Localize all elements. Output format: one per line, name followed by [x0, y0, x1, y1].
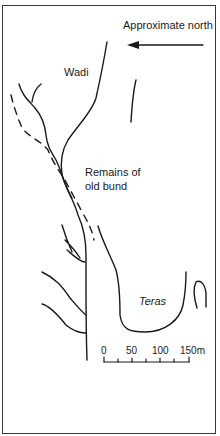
- bund-label-line1: Remains of: [85, 166, 141, 179]
- wadi-label: Wadi: [64, 66, 89, 79]
- teras-hook: [194, 281, 206, 308]
- tributary-middle: [62, 225, 85, 262]
- bund-label-line2: old bund: [85, 180, 127, 193]
- scale-tick-100: 100: [152, 344, 169, 357]
- old-bund-dashed: [11, 95, 94, 240]
- tributary-lower-a: [42, 272, 86, 315]
- wadi-right-bank: [98, 226, 186, 332]
- scale-bar: [104, 357, 189, 362]
- sketch-map: [0, 0, 220, 436]
- wadi-left-channel: [19, 84, 72, 198]
- isolated-stroke: [131, 80, 136, 122]
- scale-tick-0: 0: [101, 344, 107, 357]
- teras-label: Teras: [139, 295, 166, 308]
- tributary-top: [32, 84, 41, 102]
- north-arrow-icon: [127, 41, 203, 49]
- wadi-main-channel: [61, 42, 107, 360]
- scale-tick-150: 150m: [180, 344, 205, 357]
- north-label: Approximate north: [123, 19, 213, 32]
- scale-tick-50: 50: [126, 344, 137, 357]
